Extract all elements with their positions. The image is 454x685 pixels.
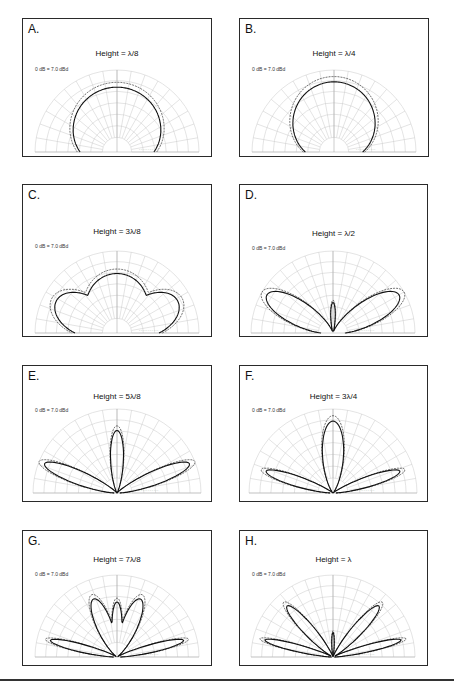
panel-d: D. Height = λ/2 0 dB = 7.0 dBd - - - - -… bbox=[239, 184, 428, 337]
polar-plot: - - - - - - - - - - - bbox=[240, 185, 427, 336]
polar-plot: - - - - - - - - - - - bbox=[23, 19, 211, 156]
polar-plot: - - - - - - - - - - - bbox=[23, 185, 211, 336]
panel-h: H. Height = λ 0 dB = 7.0 dBd - - - - - -… bbox=[239, 530, 428, 666]
panel-f: F. Height = 3λ/4 0 dB = 7.0 dBd - - - - … bbox=[239, 365, 428, 502]
svg-text:- - - - - - - - - - -: - - - - - - - - - - - bbox=[139, 328, 158, 332]
panel-e: E. Height = 5λ/8 0 dB = 7.0 dBd - - - - … bbox=[22, 365, 212, 502]
panel-a: A. Height = λ/8 0 dB = 7.0 dBd - - - - -… bbox=[22, 18, 212, 157]
polar-plot: - - - - - - - - - - - bbox=[240, 366, 427, 501]
panel-c: C. Height = 3λ/8 0 dB = 7.0 dBd - - - - … bbox=[22, 184, 212, 337]
polar-plot: - - - - - - - - - - - bbox=[240, 531, 427, 665]
caption-divider bbox=[0, 679, 454, 681]
polar-plot: - - - - - - - - - - - bbox=[23, 531, 211, 665]
polar-plot: - - - - - - - - - - - bbox=[23, 366, 211, 501]
panel-b: B. Height = λ/4 0 dB = 7.0 dBd - - - - -… bbox=[239, 18, 429, 157]
panel-g: G. Height = 7λ/8 0 dB = 7.0 dBd - - - - … bbox=[22, 530, 212, 666]
polar-plot: - - - - - - - - - - - bbox=[240, 19, 428, 156]
